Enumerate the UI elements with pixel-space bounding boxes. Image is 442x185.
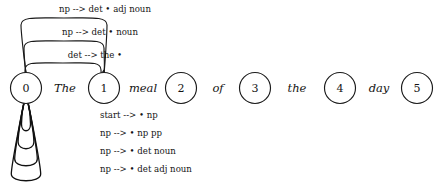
arc-rule-labels-group: np --> det • adj nounnp --> det • nounde… [59,4,151,60]
loop-rule-labels-group: start --> • npnp --> • np ppnp --> • det… [100,110,192,174]
word-label-2: meal [129,81,158,95]
state-node-label-1: 1 [101,82,108,95]
state-node-label-5: 5 [414,82,421,95]
loop-rule-label-3: np --> • det noun [100,146,176,156]
self-loop-edges-group [11,101,40,181]
word-label-3: of [212,81,225,95]
loop-rule-label-2: np --> • np pp [100,128,163,138]
self-loop-edge-2 [18,101,34,149]
word-label-5: day [369,81,390,95]
diagram-canvas: 012345 Themealoftheday np --> det • adj … [0,0,442,185]
self-loop-edge-4 [11,101,40,181]
arc-rule-label-2: np --> det • noun [62,27,138,37]
state-node-label-0: 0 [23,82,30,95]
word-label-1: The [54,81,76,95]
chart-parser-diagram: 012345 Themealoftheday np --> det • adj … [0,0,442,185]
state-node-label-3: 3 [252,82,259,95]
arc-rule-label-1: np --> det • adj noun [59,4,151,14]
state-node-label-4: 4 [337,82,344,95]
state-node-label-2: 2 [178,82,185,95]
word-label-4: the [288,81,307,95]
arc-edge-3 [25,63,104,74]
loop-rule-label-1: start --> • np [100,110,158,120]
loop-rule-label-4: np --> • det adj noun [100,164,192,174]
arc-rule-label-3: det --> the • [68,50,122,60]
